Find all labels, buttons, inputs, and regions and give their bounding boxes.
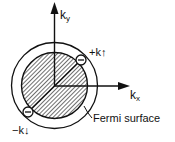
ky-label-sub: y [66,14,70,23]
spin-down-icon: ↓ [24,124,30,136]
ky-arrowhead-icon [51,2,59,14]
spin-up-icon: ↑ [101,46,107,58]
kx-axis-label: kx [130,89,140,103]
plus-k-text: +k [89,46,101,58]
kx-arrowhead-icon [118,82,130,90]
minus-k-label: −k↓ [12,125,29,136]
electron-plus-k [76,55,86,65]
plus-k-label: +k↑ [89,47,106,58]
ky-axis-label: ky [60,9,70,23]
minus-k-text: −k [12,124,24,136]
fermi-surface-label: Fermi surface [93,113,160,124]
kx-label-sub: x [136,94,140,103]
electron-minus-k [23,107,33,117]
